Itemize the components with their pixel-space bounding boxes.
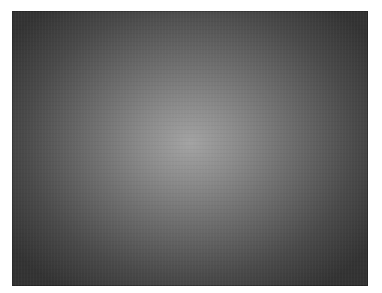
gradient-photo [12,11,368,286]
grain-overlay [12,11,368,286]
cropped-caption-top [12,1,368,11]
page [0,0,382,293]
cropped-caption-bottom [12,286,368,293]
